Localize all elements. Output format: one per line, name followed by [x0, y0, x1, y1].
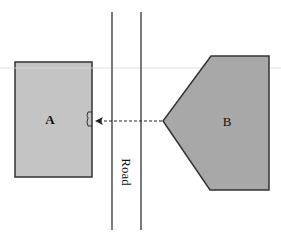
site-diagram: A Road B — [0, 0, 281, 240]
building-a-label: A — [45, 112, 55, 127]
building-a: A — [15, 62, 92, 177]
building-b-shape — [163, 56, 269, 190]
road-label: Road — [119, 158, 134, 186]
building-b: B — [163, 56, 269, 190]
access-arrow — [95, 117, 162, 125]
building-b-label: B — [223, 114, 232, 129]
